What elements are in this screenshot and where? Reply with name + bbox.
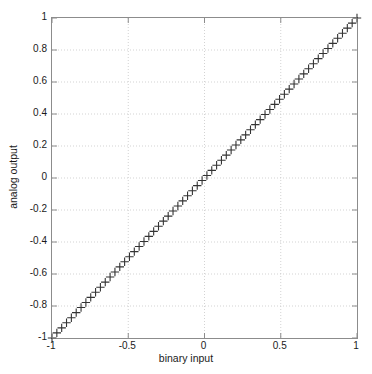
y-tick-label: 0.8 bbox=[33, 44, 47, 54]
y-tick-label: -0.2 bbox=[30, 204, 47, 214]
x-tick-label: 1 bbox=[353, 341, 359, 351]
axis-tick-marks bbox=[52, 18, 357, 338]
x-tick-label: -0.5 bbox=[119, 341, 136, 351]
y-tick-label: -0.4 bbox=[30, 236, 47, 246]
chart-figure: analog output -1-0.8-0.6-0.4-0.200.20.40… bbox=[0, 0, 372, 374]
y-tick-label: 0.2 bbox=[33, 140, 47, 150]
x-axis-label: binary input bbox=[0, 352, 372, 364]
y-axis-label: analog output bbox=[7, 145, 19, 209]
x-tick-label: 0 bbox=[201, 341, 207, 351]
x-tick-label: -1 bbox=[47, 341, 56, 351]
plot-area bbox=[51, 17, 358, 339]
y-tick-label: -0.8 bbox=[30, 300, 47, 310]
y-tick-label: 0.4 bbox=[33, 108, 47, 118]
y-tick-label: 1 bbox=[41, 12, 47, 22]
y-tick-label: 0.6 bbox=[33, 76, 47, 86]
x-tick-label: 0.5 bbox=[273, 341, 287, 351]
y-tick-label: -0.6 bbox=[30, 268, 47, 278]
y-tick-label: 0 bbox=[41, 172, 47, 182]
y-axis-label-container: analog output bbox=[4, 0, 22, 374]
